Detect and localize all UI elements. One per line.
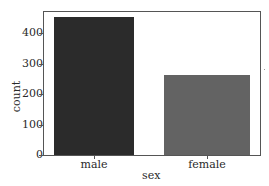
stray-mark xyxy=(264,69,265,70)
x-axis-label: sex xyxy=(142,169,160,182)
bar-male xyxy=(54,17,134,155)
y-axis-label: count xyxy=(10,77,23,117)
y-tick-mark xyxy=(39,94,43,95)
plot-area xyxy=(43,11,261,156)
bar-chart: 0 100 200 300 400 male female count sex xyxy=(0,0,269,186)
y-tick-mark xyxy=(39,33,43,34)
y-tick-mark xyxy=(39,125,43,126)
y-tick-mark xyxy=(39,64,43,65)
y-tick-mark xyxy=(39,155,43,156)
x-tick-label-female: female xyxy=(177,159,237,171)
x-tick-label-male: male xyxy=(64,159,124,171)
bar-female xyxy=(164,75,250,155)
